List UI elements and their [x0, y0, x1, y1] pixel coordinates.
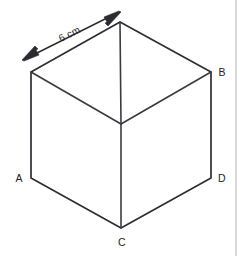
cube-inner-edge-top [120, 22, 121, 124]
vertex-label-c: C [118, 236, 126, 248]
vertex-label-d: D [218, 172, 226, 184]
cube-inner-edge-right [121, 72, 211, 124]
vertex-label-b: B [218, 66, 225, 78]
vertex-label-a: A [15, 172, 22, 184]
dimension-label: 6 cm [57, 24, 82, 44]
dimension-arrowhead-start-icon [22, 46, 39, 61]
cube-inner-edge-left [31, 72, 121, 124]
figure-page: 6 cm A B C D [0, 0, 243, 256]
isometric-cube-figure: 6 cm A B C D [0, 0, 243, 256]
